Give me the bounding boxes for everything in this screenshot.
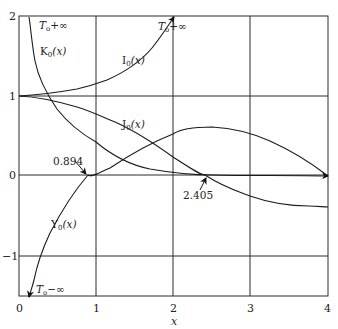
label-y0: Y0(x) bbox=[50, 218, 77, 232]
curve-y0 bbox=[29, 127, 328, 297]
y-tick-m1: −1 bbox=[2, 250, 18, 263]
x-tick-1: 1 bbox=[93, 302, 100, 315]
x-tick-2: 2 bbox=[170, 302, 177, 315]
label-k0: K0(x) bbox=[40, 45, 66, 59]
y-tick-0: 0 bbox=[9, 169, 16, 182]
y-tick-1: 1 bbox=[9, 90, 16, 103]
x-tick-4: 4 bbox=[324, 302, 331, 315]
x-tick-0: 0 bbox=[16, 302, 23, 315]
label-i0: I0(x) bbox=[122, 54, 145, 68]
label-k0-to-plus-inf: To+∞ bbox=[39, 19, 68, 33]
label-j0: J0(x) bbox=[121, 118, 145, 132]
label-i0-to-plus-inf: To+∞ bbox=[158, 20, 187, 34]
x-tick-3: 3 bbox=[247, 302, 254, 315]
y-tick-2: 2 bbox=[9, 10, 16, 23]
x-axis-label: x bbox=[171, 315, 178, 328]
bessel-chart: K0(x) I0(x) J0(x) Y0(x) To+∞ To+∞ To−∞ 0… bbox=[0, 0, 338, 329]
label-y0-to-minus-inf: To−∞ bbox=[36, 283, 65, 297]
annotation-2405: 2.405 bbox=[183, 189, 213, 201]
annotation-0894: 0.894 bbox=[53, 155, 83, 167]
